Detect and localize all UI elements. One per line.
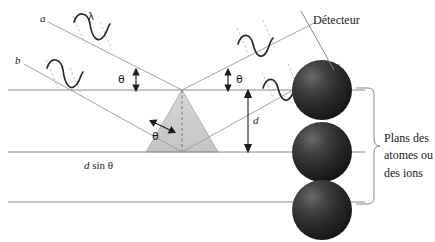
atom-spheres [292, 60, 352, 240]
ray-a-label: a [40, 13, 46, 24]
diagram-canvas [0, 0, 435, 242]
path-difference-label: d sin θ [84, 160, 113, 171]
ray-b-label: b [15, 55, 21, 66]
theta-left-label: θ [118, 74, 125, 85]
wave-packets [47, 14, 298, 100]
planes-brace [356, 88, 380, 204]
planes-caption-line-2: atomes ou [384, 147, 433, 164]
wave-out-upper [238, 35, 273, 56]
path-difference-sin: sin θ [90, 159, 114, 171]
theta-right-label: θ [236, 74, 243, 85]
bragg-diffraction-figure: a b λ θ θ θ d d sin θ Détecteur Plans de… [0, 0, 435, 242]
theta-triangle-label: θ [152, 131, 159, 142]
wavefront-ticks [46, 16, 300, 100]
atom-sphere-top [292, 60, 352, 120]
planes-caption-line-1: Plans des [384, 130, 433, 147]
planes-caption: Plans des atomes ou des ions [384, 130, 433, 182]
atom-sphere-bottom [292, 180, 352, 240]
atom-sphere-middle [292, 122, 352, 182]
planes-caption-line-3: des ions [384, 165, 433, 182]
wavelength-label: λ [88, 12, 94, 22]
detector-label: Détecteur [313, 14, 360, 26]
spacing-arrow [245, 90, 251, 152]
interplanar-spacing-label: d [253, 115, 259, 126]
wave-ray-b [47, 60, 83, 88]
